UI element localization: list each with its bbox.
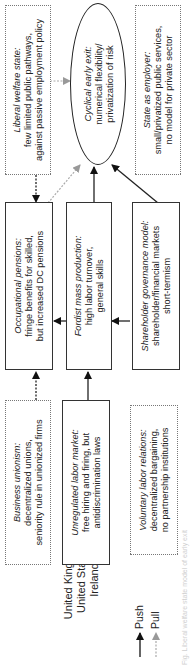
legend-pull: Pull	[149, 611, 161, 629]
box-line: few limited public pathways,	[23, 33, 33, 147]
box-line: against passive employment policy	[34, 19, 44, 161]
box-title: State as employer:	[142, 52, 152, 129]
box-line: but increased DC pensions	[35, 231, 45, 341]
box-shareholder-governance: Shareholder governance model: shareholde…	[132, 202, 180, 370]
box-state-as-employer: State as employer: small/privatized publ…	[135, 5, 181, 175]
box-line: decentralized unions,	[23, 439, 33, 526]
box-voluntary-labor-relations: Voluntary labor relations: decentralized…	[130, 405, 178, 555]
outcome-title: Cyclical early exit:	[82, 46, 93, 121]
box-business-unionism: Business unionism: decentralized unions,…	[5, 400, 51, 565]
outcome-ellipse: Cyclical early exit: numerical flexibili…	[70, 3, 126, 165]
box-line: seniority rule in unionized firms	[34, 419, 44, 545]
box-line: free hiring and firing, but	[81, 433, 91, 532]
box-line: shareholder/financial markets	[151, 226, 161, 346]
push-label: Push	[133, 605, 145, 629]
box-title: Occupational pensions:	[13, 238, 23, 334]
box-title: Business unionism:	[12, 443, 22, 522]
box-line: decentralized bargaining,	[149, 429, 159, 532]
box-line: antidiscrimination laws	[92, 437, 102, 529]
box-line: fringe benefits for skilled,	[24, 235, 34, 337]
box-line: general skills	[95, 259, 105, 312]
box-line: no model for private sector	[164, 36, 174, 145]
figure-caption: Fig. Liberal welfare state model of earl…	[181, 5, 188, 665]
box-unregulated-labor-market: Unregulated labor market: free hiring an…	[62, 400, 110, 565]
box-title: Voluntary labor relations:	[138, 429, 148, 530]
box-line: small/privatized public services,	[153, 26, 163, 155]
outcome-line: numerical flexibility/	[93, 43, 104, 124]
box-liberal-welfare-state: Liberal welfare state: few limited publi…	[5, 5, 51, 175]
outcome-line: privatization of risk	[104, 45, 115, 123]
box-line: short-termism	[162, 258, 172, 314]
box-line: high labor turnover,	[84, 247, 94, 326]
box-title: Unregulated labor market:	[70, 429, 80, 535]
pull-label: Pull	[149, 611, 161, 629]
box-title: Liberal welfare state:	[12, 48, 22, 133]
box-fordist-mass-production: Fordist mass production: high labor turn…	[66, 202, 112, 370]
box-occupational-pensions: Occupational pensions: fringe benefits f…	[5, 202, 53, 370]
legend-push: Push	[133, 605, 145, 629]
box-title: Fordist mass production:	[73, 236, 83, 337]
box-title: Shareholder governance model:	[140, 221, 150, 352]
diagram-canvas: United Kingdom United States Ireland Pus…	[0, 0, 192, 665]
box-line: no partnership institutions	[160, 428, 170, 533]
